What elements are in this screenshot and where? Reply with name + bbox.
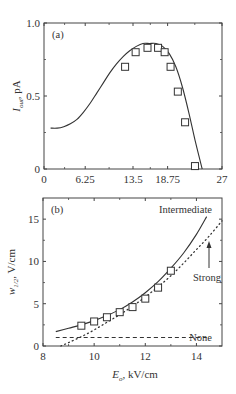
panel-a-x-tick-label: 18.75 — [155, 173, 180, 185]
panel-b-y-tick-label: 5 — [34, 298, 40, 310]
figure: 06.2513.518.752700.51.0 (a) Iout, pA 810… — [0, 0, 236, 394]
panel-b-series-measured-marker — [167, 267, 174, 274]
panel-b-label: (b) — [51, 204, 64, 216]
panel-b-x-tick-label: 14 — [191, 350, 203, 362]
panel-b-x-axis-label: Eo, kV/cm — [111, 368, 158, 383]
panel-a-series-measured-marker — [161, 49, 168, 56]
panel-a-chart: 06.2513.518.752700.51.0 (a) Iout, pA — [10, 17, 228, 185]
panel-a-series-measured-marker — [174, 88, 181, 95]
panel-a-series-measured-marker — [155, 44, 162, 51]
panel-a-y-axis-label: Iout, pA — [10, 80, 25, 113]
panel-b-series-measured-marker — [155, 284, 162, 291]
panel-a-label: (a) — [52, 29, 64, 41]
panel-a-series-measured-marker — [132, 49, 139, 56]
panel-b-y-tick-label: 0 — [34, 340, 40, 352]
panel-b-x-tick-label: 10 — [89, 350, 101, 362]
annotation-intermediate: Intermediate — [159, 204, 212, 215]
panel-b-series-measured-marker — [103, 314, 110, 321]
panel-a-frame — [44, 23, 222, 169]
annotation-none: None — [189, 332, 212, 343]
panel-b-series-measured-marker — [129, 304, 136, 311]
panel-b-x-tick-label: 12 — [140, 350, 151, 362]
panel-b-series-measured-marker — [116, 309, 123, 316]
panel-a-y-tick-label: 0.5 — [26, 90, 40, 102]
panel-a-x-tick-label: 0 — [41, 173, 47, 185]
annotation-strong: Strong — [193, 272, 222, 283]
panel-a-series-measured-marker — [167, 63, 174, 70]
panel-b-series-measured-marker — [91, 318, 98, 325]
panel-b-series-measured-marker — [78, 322, 85, 329]
arrow-up-icon — [207, 241, 212, 248]
panel-a-series — [51, 43, 203, 169]
panel-b-y-tick-label: 10 — [28, 255, 40, 267]
panel-a-series-model-line — [51, 43, 203, 169]
panel-a-series-measured-marker — [122, 63, 129, 70]
panel-a-series-measured-marker — [144, 44, 151, 51]
panel-a-y-tick-label: 1.0 — [26, 17, 40, 29]
panel-a-x-tick-label: 13.5 — [123, 173, 143, 185]
panel-a-y-tick-label: 0 — [35, 163, 41, 175]
panel-a-x-tick-label: 27 — [217, 173, 229, 185]
panel-b-series-intermediate-line — [56, 217, 207, 332]
panel-b-y-axis-label: w1/2, V/cm — [5, 249, 20, 295]
panel-b-y-tick-label: 15 — [28, 213, 40, 225]
panel-b-series-measured-marker — [142, 295, 149, 302]
panel-a-series-measured-marker — [191, 163, 198, 170]
panel-b-chart: 8101214051015 (b) Intermediate Strong No… — [5, 198, 222, 383]
panel-a-x-tick-label: 6.25 — [76, 173, 96, 185]
panel-a-ticks: 06.2513.518.752700.51.0 — [26, 17, 228, 185]
panel-a-series-measured-marker — [182, 119, 189, 126]
panel-b-x-tick-label: 8 — [40, 350, 46, 362]
